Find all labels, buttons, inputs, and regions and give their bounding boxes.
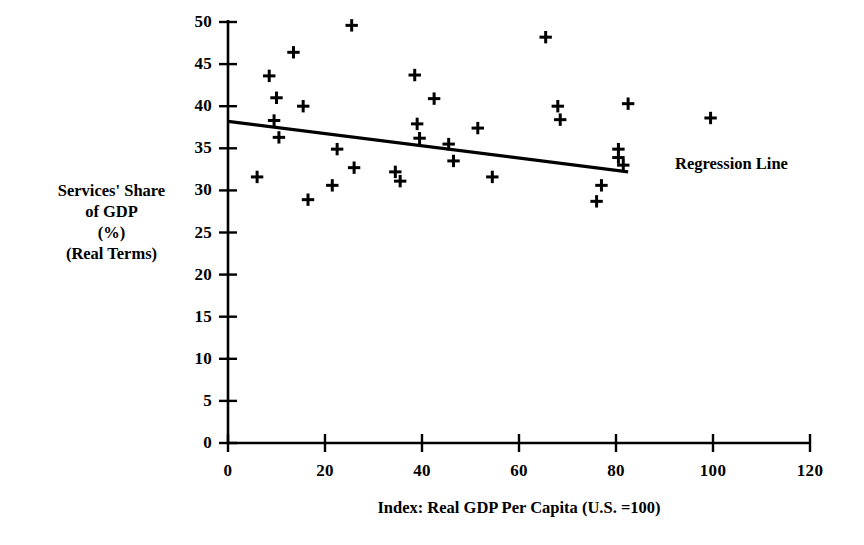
data-point-marker xyxy=(268,114,280,126)
data-point-marker xyxy=(411,118,423,130)
x-tick-label: 20 xyxy=(316,461,334,481)
plot-canvas xyxy=(0,0,864,545)
data-point-marker xyxy=(287,46,299,58)
y-tick-label: 30 xyxy=(160,180,212,200)
data-point-marker xyxy=(539,31,551,43)
data-point-marker xyxy=(428,92,440,104)
y-tick-label: 45 xyxy=(160,54,212,74)
data-point-marker xyxy=(302,193,314,205)
data-point-marker xyxy=(622,97,634,109)
y-tick-label: 10 xyxy=(160,349,212,369)
data-point-marker xyxy=(297,100,309,112)
data-point-marker xyxy=(554,113,566,125)
y-tick-label: 20 xyxy=(160,265,212,285)
y-tick-label: 5 xyxy=(160,391,212,411)
data-points xyxy=(251,19,717,207)
y-tick-label: 25 xyxy=(160,223,212,243)
regression-line xyxy=(228,121,628,172)
data-point-marker xyxy=(270,92,282,104)
y-tick-label: 35 xyxy=(160,138,212,158)
data-point-marker xyxy=(447,155,459,167)
data-point-marker xyxy=(331,143,343,155)
scatter-chart-figure: Services' Share of GDP (%) (Real Terms) … xyxy=(0,0,864,545)
y-tick-label: 50 xyxy=(160,12,212,32)
regression-line-stroke xyxy=(228,121,628,172)
data-point-marker xyxy=(345,19,357,31)
data-point-marker xyxy=(590,195,602,207)
data-point-marker xyxy=(273,131,285,143)
data-point-marker xyxy=(409,69,421,81)
data-point-marker xyxy=(413,132,425,144)
data-point-marker xyxy=(348,161,360,173)
data-point-marker xyxy=(704,112,716,124)
x-tick-label: 80 xyxy=(607,461,625,481)
data-point-marker xyxy=(552,100,564,112)
x-tick-label: 0 xyxy=(224,461,233,481)
y-tick-label: 0 xyxy=(160,433,212,453)
y-tick-label: 40 xyxy=(160,96,212,116)
data-point-marker xyxy=(263,70,275,82)
axes xyxy=(219,20,810,452)
data-point-marker xyxy=(472,122,484,134)
x-tick-label: 60 xyxy=(510,461,528,481)
x-tick-label: 100 xyxy=(700,461,726,481)
data-point-marker xyxy=(251,171,263,183)
x-axis-title: Index: Real GDP Per Capita (U.S. =100) xyxy=(228,498,810,518)
data-point-marker xyxy=(326,179,338,191)
data-point-marker xyxy=(595,179,607,191)
x-tick-label: 40 xyxy=(413,461,431,481)
regression-line-label: Regression Line xyxy=(675,154,788,174)
x-tick-label: 120 xyxy=(797,461,823,481)
y-tick-label: 15 xyxy=(160,307,212,327)
data-point-marker xyxy=(486,171,498,183)
